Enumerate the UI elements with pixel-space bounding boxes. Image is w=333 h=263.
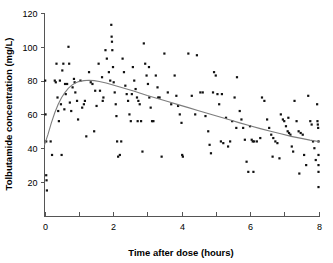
y-tick-label: 80 bbox=[27, 76, 37, 86]
data-point bbox=[253, 140, 255, 142]
data-point bbox=[220, 140, 222, 142]
data-point bbox=[245, 161, 247, 163]
data-point bbox=[163, 52, 165, 54]
data-point bbox=[94, 90, 96, 92]
data-point bbox=[126, 93, 128, 95]
y-tick-label: 40 bbox=[27, 144, 37, 154]
data-point bbox=[71, 86, 73, 88]
data-point bbox=[307, 95, 309, 97]
data-point bbox=[115, 115, 117, 117]
data-point bbox=[101, 76, 103, 78]
data-point bbox=[213, 71, 215, 73]
data-point bbox=[161, 156, 163, 158]
data-point bbox=[108, 71, 110, 73]
data-point bbox=[60, 103, 62, 105]
y-tick-label: 20 bbox=[27, 178, 37, 188]
data-point bbox=[233, 96, 235, 98]
data-point bbox=[128, 113, 130, 115]
data-point bbox=[270, 134, 272, 136]
data-point bbox=[261, 96, 263, 98]
data-point bbox=[61, 154, 63, 156]
data-point bbox=[63, 108, 65, 110]
data-point bbox=[199, 91, 201, 93]
data-point bbox=[66, 83, 68, 85]
data-point bbox=[302, 134, 304, 136]
data-point bbox=[316, 120, 318, 122]
data-point bbox=[44, 113, 46, 115]
data-point bbox=[109, 80, 111, 82]
data-point bbox=[311, 123, 313, 125]
data-point bbox=[93, 130, 95, 132]
data-point bbox=[120, 140, 122, 142]
data-point bbox=[298, 130, 300, 132]
data-point bbox=[58, 120, 60, 122]
data-point bbox=[44, 80, 46, 82]
data-point bbox=[137, 100, 139, 102]
data-point bbox=[55, 81, 57, 83]
data-point bbox=[272, 137, 274, 139]
data-point bbox=[222, 142, 224, 144]
data-point bbox=[182, 156, 184, 158]
data-point bbox=[240, 118, 242, 120]
data-point bbox=[83, 103, 85, 105]
data-point bbox=[280, 113, 282, 115]
data-point bbox=[81, 107, 83, 109]
data-point bbox=[317, 127, 319, 129]
data-point bbox=[136, 96, 138, 98]
data-point bbox=[156, 86, 158, 88]
data-point bbox=[123, 71, 125, 73]
data-point bbox=[140, 120, 142, 122]
data-point bbox=[174, 74, 176, 76]
data-point bbox=[59, 80, 61, 82]
data-point bbox=[46, 189, 48, 191]
data-point bbox=[127, 100, 129, 102]
data-point bbox=[104, 49, 106, 51]
y-axis-title: Tolbutamide concentration (mg/L) bbox=[3, 38, 14, 191]
data-point bbox=[239, 110, 241, 112]
data-point bbox=[111, 49, 113, 51]
data-point bbox=[274, 140, 276, 142]
data-point bbox=[113, 81, 115, 83]
data-point bbox=[50, 140, 52, 142]
data-point bbox=[300, 132, 302, 134]
data-point bbox=[256, 140, 258, 142]
data-point bbox=[303, 154, 305, 156]
data-point bbox=[141, 150, 143, 152]
data-point bbox=[287, 117, 289, 119]
data-point bbox=[114, 91, 116, 93]
data-point bbox=[216, 93, 218, 95]
data-point bbox=[218, 103, 220, 105]
data-point bbox=[210, 152, 212, 154]
data-point bbox=[147, 83, 149, 85]
data-point bbox=[242, 127, 244, 129]
data-point bbox=[150, 107, 152, 109]
x-tick-label: 0 bbox=[43, 222, 48, 232]
data-point bbox=[148, 66, 150, 68]
x-tick-label: 6 bbox=[248, 222, 253, 232]
data-point bbox=[76, 100, 78, 102]
data-point bbox=[111, 36, 113, 38]
data-point bbox=[121, 58, 123, 60]
data-point bbox=[130, 120, 132, 122]
data-point bbox=[144, 63, 146, 65]
data-point bbox=[135, 88, 137, 90]
data-point bbox=[236, 76, 238, 78]
data-point bbox=[317, 171, 319, 173]
data-point bbox=[292, 150, 294, 152]
data-point bbox=[278, 157, 280, 159]
data-point bbox=[276, 142, 278, 144]
data-point bbox=[68, 63, 70, 65]
data-point bbox=[196, 54, 198, 56]
data-point bbox=[84, 100, 86, 102]
data-point bbox=[124, 85, 126, 87]
data-point bbox=[91, 83, 93, 85]
data-point bbox=[74, 91, 76, 93]
data-point bbox=[235, 127, 237, 129]
data-point bbox=[152, 120, 154, 122]
data-point bbox=[57, 110, 59, 112]
y-tick-label: 100 bbox=[22, 43, 37, 53]
data-point bbox=[268, 127, 270, 129]
data-point bbox=[45, 174, 47, 176]
data-point bbox=[317, 164, 319, 166]
data-point bbox=[291, 145, 293, 147]
